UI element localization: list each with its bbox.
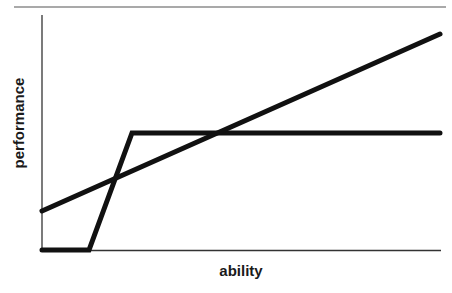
step-line [42, 133, 440, 250]
x-axis-label: ability [0, 262, 452, 279]
chart-canvas [0, 0, 452, 293]
linear-line [42, 34, 440, 211]
y-axis-label: performance [10, 89, 27, 169]
